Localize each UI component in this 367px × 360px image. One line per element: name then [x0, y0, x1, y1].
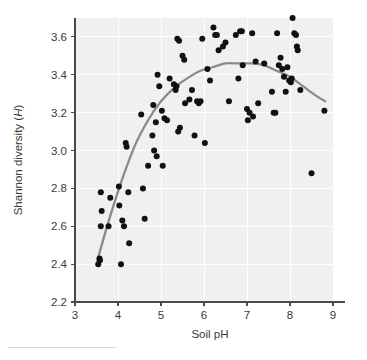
y-axis-tick-label: 3.2 [51, 107, 67, 119]
data-point [272, 110, 278, 116]
data-point [153, 119, 159, 125]
x-axis-tick-label: 6 [201, 309, 207, 321]
data-point [214, 32, 220, 38]
data-point [253, 59, 259, 65]
data-point [160, 163, 166, 169]
data-point [198, 98, 204, 104]
y-axis-title-group: Shannon diversity (H) [12, 105, 24, 216]
data-point [297, 87, 303, 93]
data-point [176, 38, 182, 44]
data-point [199, 36, 205, 42]
data-point [155, 72, 161, 78]
x-axis-tick-label: 5 [158, 309, 164, 321]
data-point [97, 257, 103, 263]
data-point [116, 184, 122, 190]
y-axis-tick-labels: 2.22.42.62.83.03.23.43.6 [51, 31, 68, 308]
data-point [173, 83, 179, 89]
data-point [181, 57, 187, 63]
data-point [290, 15, 296, 21]
data-point [281, 74, 287, 80]
data-point [289, 76, 295, 82]
x-axis-tick-label: 8 [287, 309, 293, 321]
x-axis-tick-label: 4 [115, 309, 122, 321]
data-point [255, 100, 261, 106]
y-axis-tick-label: 2.6 [51, 220, 67, 232]
data-point [119, 218, 125, 224]
footer-divider-rule [8, 347, 116, 348]
data-point [250, 113, 256, 119]
data-point [116, 202, 122, 208]
y-axis-tick-label: 2.8 [51, 182, 67, 194]
data-point [269, 89, 275, 95]
data-point [164, 117, 170, 123]
data-point [107, 195, 113, 201]
y-axis-tick-label: 3.6 [51, 31, 67, 43]
data-point [118, 261, 124, 267]
data-point [284, 64, 290, 70]
data-point [293, 32, 299, 38]
x-axis-tick-label: 9 [330, 309, 336, 321]
data-point [204, 66, 210, 72]
data-point [154, 153, 160, 159]
data-point [235, 76, 241, 82]
data-point [202, 140, 208, 146]
scatter-plot-chart: 2.22.42.62.83.03.23.43.6 3456789 Soil pH… [0, 0, 367, 360]
data-point [274, 30, 280, 36]
data-point [98, 223, 104, 229]
data-point [223, 40, 229, 46]
data-point [106, 223, 112, 229]
data-point [249, 30, 255, 36]
data-point [138, 112, 144, 118]
x-axis-title: Soil pH [191, 328, 228, 340]
data-point [167, 76, 173, 82]
data-point [149, 132, 155, 138]
data-point [207, 77, 213, 83]
data-point [151, 148, 157, 154]
y-axis-tick-label: 2.4 [51, 258, 68, 270]
data-point [245, 117, 251, 123]
data-point [125, 189, 131, 195]
y-axis-tick-label: 2.2 [51, 296, 67, 308]
data-point [150, 102, 156, 108]
data-point [210, 24, 216, 30]
data-point [226, 98, 232, 104]
data-point [295, 47, 301, 53]
data-point [99, 208, 105, 214]
data-point [126, 240, 132, 246]
data-point [192, 132, 198, 138]
data-point [159, 108, 165, 114]
x-axis-tick-label: 3 [72, 309, 78, 321]
data-point [309, 170, 315, 176]
x-axis-tick-label: 7 [244, 309, 250, 321]
figure-root: 2.22.42.62.83.03.23.43.6 3456789 Soil pH… [0, 0, 367, 360]
x-axis-tick-labels: 3456789 [72, 309, 336, 321]
data-point [186, 96, 192, 102]
data-point [140, 185, 146, 191]
data-point [156, 83, 162, 89]
y-axis-tick-label: 3.0 [51, 145, 67, 157]
data-point [177, 125, 183, 131]
y-axis-title: Shannon diversity (H) [12, 105, 24, 216]
data-point [261, 60, 267, 66]
data-point [278, 55, 284, 61]
data-point [189, 87, 195, 93]
data-point [279, 66, 285, 72]
y-axis-tick-label: 3.4 [51, 69, 68, 81]
data-point [283, 89, 289, 95]
data-point [124, 144, 130, 150]
data-point [239, 28, 245, 34]
data-point [98, 189, 104, 195]
data-point [121, 223, 127, 229]
data-point [321, 108, 327, 114]
data-point [145, 163, 151, 169]
data-point [240, 62, 246, 68]
data-point [142, 216, 148, 222]
